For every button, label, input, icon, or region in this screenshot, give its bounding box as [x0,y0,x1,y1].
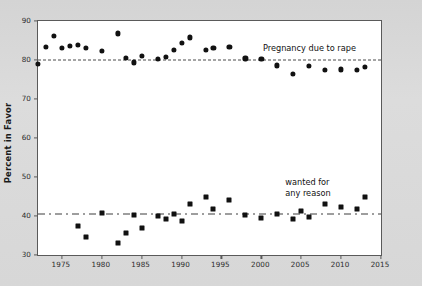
data-point [83,46,88,51]
any-reason-series-label: wanted forany reason [285,177,330,199]
plot-area: Pregnancy due to rapewanted forany reaso… [38,21,381,255]
data-point [115,241,120,246]
x-tick-label: 1995 [211,260,230,269]
any-reason-mean-line [38,214,381,215]
data-point [355,206,360,211]
x-tick-label: 1985 [131,260,150,269]
rape-mean-line [38,60,381,61]
data-point [123,231,128,236]
data-point [291,71,296,76]
x-tick-mark [221,255,222,259]
data-point [323,68,328,73]
y-tick-mark [34,20,38,21]
data-point [275,211,280,216]
data-point [307,64,312,69]
data-point [163,217,168,222]
data-point [307,214,312,219]
data-point [131,213,136,218]
data-point [179,41,184,46]
data-point [75,224,80,229]
data-point [139,53,144,58]
data-point [35,61,40,66]
data-point [115,31,120,36]
data-point [203,47,208,52]
any-reason-series-label-line1: wanted for [285,177,330,188]
y-tick-label: 80 [22,55,31,64]
data-point [259,216,264,221]
x-tick-mark [341,255,342,259]
data-point [323,201,328,206]
data-point [171,47,176,52]
data-point [227,197,232,202]
data-point [155,57,160,62]
y-tick-mark [34,254,38,255]
data-point [99,210,104,215]
data-point [291,217,296,222]
x-tick-mark [181,255,182,259]
any-reason-series-label-line2: any reason [285,188,330,199]
data-point [51,33,56,38]
data-point [43,44,48,49]
x-tick-label: 2005 [291,260,310,269]
data-point [259,56,264,61]
x-tick-mark [141,255,142,259]
x-tick-label: 1980 [91,260,110,269]
data-point [187,35,192,40]
x-tick-label: 1990 [171,260,190,269]
x-tick-mark [261,255,262,259]
data-point [99,48,104,53]
data-point [67,43,72,48]
rape-series-label: Pregnancy due to rape [263,43,356,54]
y-axis-title: Percent in Favor [3,103,13,184]
data-point [155,214,160,219]
plot-frame: Pregnancy due to rapewanted forany reaso… [37,20,382,256]
y-tick-mark [34,215,38,216]
data-point [243,213,248,218]
x-tick-mark [380,255,381,259]
y-tick-label: 60 [22,133,31,142]
data-point [171,211,176,216]
data-point [211,206,216,211]
data-point [275,63,280,68]
chart-figure: Percent in Favor Pregnancy due to rapewa… [0,0,422,286]
data-point [83,235,88,240]
data-point [227,45,232,50]
y-tick-label: 70 [22,94,31,103]
x-tick-label: 1975 [52,260,71,269]
y-tick-label: 90 [22,16,31,25]
x-tick-mark [101,255,102,259]
y-tick-label: 50 [22,172,31,181]
data-point [203,194,208,199]
data-point [362,64,367,69]
x-tick-label: 2015 [371,260,390,269]
x-tick-mark [61,255,62,259]
data-point [179,219,184,224]
data-point [339,67,344,72]
y-tick-label: 40 [22,211,31,220]
x-tick-mark [301,255,302,259]
data-point [339,204,344,209]
data-point [139,225,144,230]
y-tick-mark [34,176,38,177]
data-point [75,43,80,48]
x-tick-label: 2000 [251,260,270,269]
data-point [187,201,192,206]
data-point [354,68,359,73]
y-tick-mark [34,98,38,99]
data-point [131,60,136,65]
y-tick-mark [34,137,38,138]
y-tick-label: 30 [22,250,31,259]
x-tick-label: 2010 [331,260,350,269]
data-point [363,194,368,199]
data-point [299,208,304,213]
data-point [211,45,216,50]
data-point [59,45,64,50]
